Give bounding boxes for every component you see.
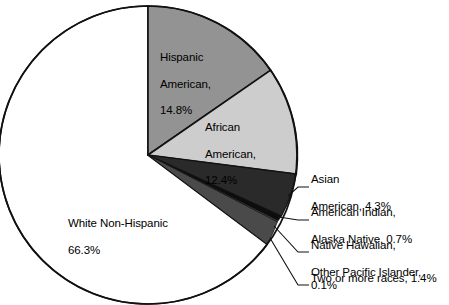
leader-line-native-hawaiian-other-pacific-islander [274, 226, 309, 252]
callout-label-line: American Indian, [311, 206, 412, 219]
callout-label-line: Two or more races, 1.4% [311, 272, 437, 285]
callout-label-two-or-more-races: Two or more races, 1.4% [311, 259, 437, 299]
slice-label-line: White Non-Hispanic [68, 217, 168, 230]
slice-label-line: African [205, 121, 256, 134]
slice-value: 66.3% [68, 244, 168, 257]
slice-value: 14.8% [160, 104, 211, 117]
slice-label-african-american: African American, 12.4% [205, 108, 256, 200]
callout-label-line: Native Hawaiian, [311, 239, 449, 252]
slice-label-line: Hispanic [160, 51, 211, 64]
slice-label-line: American, [205, 148, 256, 161]
slice-value: 12.4% [205, 174, 256, 187]
slice-label-hispanic-american: Hispanic American, 14.8% [160, 38, 211, 130]
slice-label-line: American, [160, 78, 211, 91]
leader-line-two-or-more-races [270, 238, 309, 285]
pie-chart-figure: Hispanic American, 14.8% African America… [0, 0, 449, 305]
slice-label-white-non-hispanic: White Non-Hispanic 66.3% [68, 204, 168, 270]
callout-label-line: Asian [311, 173, 391, 186]
